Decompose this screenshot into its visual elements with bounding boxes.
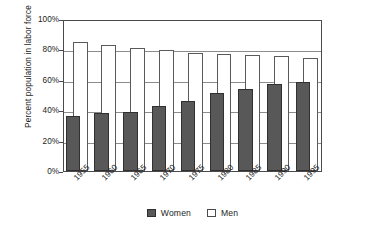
chart-figure: Percent population in labor force 0%20%4… (0, 0, 385, 236)
plot-area (63, 20, 322, 172)
bar-women (296, 82, 310, 171)
bar-women (238, 89, 252, 171)
bar-women (66, 116, 80, 171)
legend-swatch-women-icon (147, 209, 156, 217)
y-axis-tick-label: 40% (19, 106, 59, 115)
y-axis-tick-label: 0% (19, 167, 59, 176)
bar-women (94, 113, 108, 171)
bar-group (265, 21, 294, 171)
bar-group (150, 21, 179, 171)
chart-legend: WomenMen (0, 208, 385, 218)
bar-group (122, 21, 151, 171)
legend-label: Women (161, 208, 191, 218)
y-axis-tick-label: 80% (19, 45, 59, 54)
bar-group (93, 21, 122, 171)
y-axis-tick-label: 20% (19, 137, 59, 146)
legend-swatch-men-icon (207, 209, 216, 217)
bar-women (152, 106, 166, 171)
legend-item: Women (147, 208, 191, 218)
bar-group (294, 21, 323, 171)
y-axis-tick-mark (59, 172, 63, 173)
legend-label: Men (221, 208, 238, 218)
bar-women (123, 112, 137, 171)
bar-group (237, 21, 266, 171)
y-axis-tick-label: 100% (19, 15, 59, 24)
bar-women (267, 84, 281, 171)
bar-group (64, 21, 93, 171)
legend-item: Men (207, 208, 238, 218)
bar-women (210, 93, 224, 171)
bar-group (179, 21, 208, 171)
bar-group (208, 21, 237, 171)
bar-women (181, 101, 195, 171)
y-axis-tick-label: 60% (19, 76, 59, 85)
